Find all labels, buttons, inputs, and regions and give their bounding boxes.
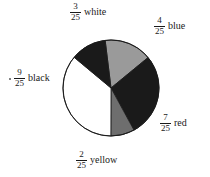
- fraction-red: 7 25: [160, 113, 171, 133]
- stray-mark: [9, 78, 11, 80]
- fraction-numerator: 7: [162, 113, 169, 122]
- fraction-denominator: 25: [70, 13, 81, 22]
- slice-name-white: white: [84, 7, 106, 17]
- slice-name-blue: blue: [168, 21, 185, 31]
- slice-name-yellow: yellow: [90, 155, 117, 165]
- fraction-yellow: 2 25: [76, 150, 87, 170]
- fraction-denominator: 25: [154, 27, 165, 36]
- fraction-black: 9 25: [14, 68, 25, 88]
- slice-name-red: red: [174, 118, 187, 128]
- fraction-denominator: 25: [14, 79, 25, 88]
- fraction-numerator: 2: [78, 150, 85, 159]
- slice-label-blue: 4 25 blue: [154, 16, 185, 36]
- fraction-white: 3 25: [70, 2, 81, 22]
- fraction-denominator: 25: [76, 161, 87, 170]
- slice-label-red: 7 25 red: [160, 113, 187, 133]
- fraction-numerator: 9: [16, 68, 23, 77]
- fraction-denominator: 25: [160, 124, 171, 133]
- slice-label-white: 3 25 white: [70, 2, 106, 22]
- fraction-blue: 4 25: [154, 16, 165, 36]
- fraction-numerator: 3: [72, 2, 79, 11]
- slice-label-yellow: 2 25 yellow: [76, 150, 117, 170]
- pie-chart-figure: 3 25 white 4 25 blue 7 25 red 2 25 yello…: [0, 0, 210, 177]
- slice-name-black: black: [28, 73, 50, 83]
- fraction-numerator: 4: [156, 16, 163, 25]
- slice-label-black: 9 25 black: [14, 68, 50, 88]
